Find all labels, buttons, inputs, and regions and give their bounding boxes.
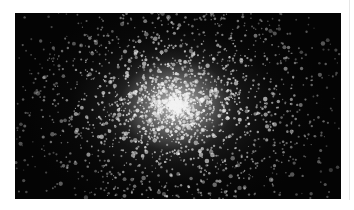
- divider-line: [349, 0, 350, 200]
- stars-layer: [15, 13, 341, 199]
- star-cluster-photo: [15, 13, 341, 199]
